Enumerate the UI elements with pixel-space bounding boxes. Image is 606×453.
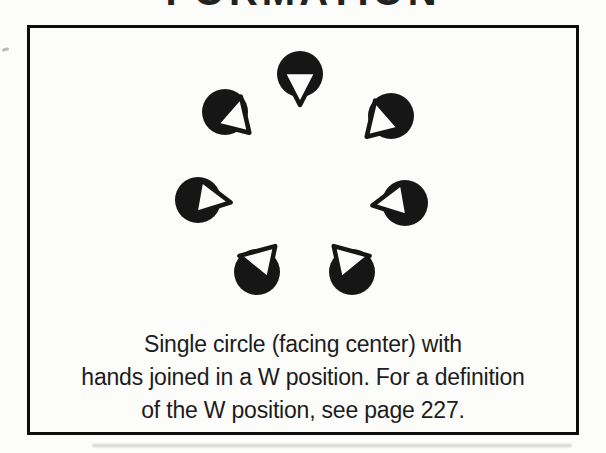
page-heading-fragment: FORMATION xyxy=(0,0,606,14)
scan-shadow-line xyxy=(92,444,572,447)
figure-caption: Single circle (facing center) with hands… xyxy=(30,328,576,427)
scanned-page: FORMATION Single circle (facing center) … xyxy=(0,0,606,453)
caption-line-2: hands joined in a W position. For a defi… xyxy=(30,361,576,394)
caption-line-3: of the W position, see page 227. xyxy=(30,394,576,427)
scan-speck xyxy=(2,47,9,51)
caption-line-1: Single circle (facing center) with xyxy=(30,328,576,361)
